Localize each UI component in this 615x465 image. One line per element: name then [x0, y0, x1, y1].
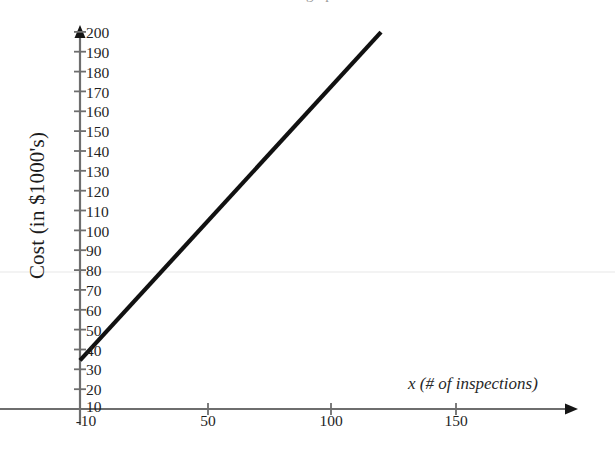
- y-tick-label-70: 70: [86, 282, 102, 300]
- y-tick-label-90: 90: [86, 242, 102, 260]
- y-tick-label-140: 140: [86, 143, 109, 161]
- x-tick-label-100: 100: [301, 412, 361, 430]
- y-tick-label-20: 20: [86, 381, 102, 399]
- y-tick-label-120: 120: [86, 183, 109, 201]
- x-tick-label-minus10: -10: [56, 412, 116, 430]
- y-tick-label-40: 40: [86, 342, 102, 360]
- y-tick-label-160: 160: [86, 103, 109, 121]
- y-tick-label-170: 170: [86, 84, 109, 102]
- y-tick-label-110: 110: [86, 203, 109, 221]
- y-tick-label-200: 200: [86, 24, 109, 42]
- y-tick-label-190: 190: [86, 44, 109, 62]
- y-tick-label-180: 180: [86, 64, 109, 82]
- x-tick-label-50: 50: [178, 412, 238, 430]
- cost-line-series: [80, 32, 381, 360]
- y-axis-label: Cost (in $1000's): [25, 91, 50, 321]
- chart-page: Cost graph: [0, 0, 615, 465]
- x-axis-label: x (# of inspections): [408, 374, 538, 394]
- x-tick-marks: [80, 403, 456, 421]
- x-axis-arrowhead: [565, 404, 578, 415]
- y-tick-label-50: 50: [86, 322, 102, 340]
- y-tick-label-150: 150: [86, 123, 109, 141]
- y-tick-label-80: 80: [86, 262, 102, 280]
- y-tick-label-130: 130: [86, 163, 109, 181]
- y-tick-label-60: 60: [86, 302, 102, 320]
- y-tick-label-30: 30: [86, 361, 102, 379]
- y-tick-label-100: 100: [86, 223, 109, 241]
- x-tick-label-150: 150: [426, 412, 486, 430]
